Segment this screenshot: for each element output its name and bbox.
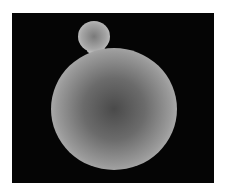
large-sphere: [51, 48, 177, 170]
small-sphere: [78, 21, 110, 52]
